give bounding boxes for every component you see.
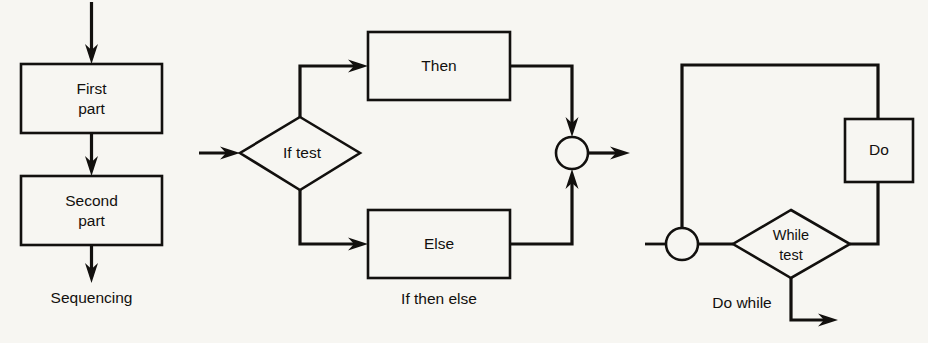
node-second-part: Second part xyxy=(21,176,162,245)
node-while-test-line2: test xyxy=(779,247,802,263)
caption-do-while: Do while xyxy=(712,294,771,311)
node-do: Do xyxy=(845,119,913,182)
node-loop-junction xyxy=(666,228,698,260)
node-merge-connector xyxy=(556,137,588,169)
connector-exit-if-then-else xyxy=(588,147,630,160)
node-second-part-line1: Second xyxy=(65,192,118,209)
node-first-part-line2: part xyxy=(78,100,105,117)
node-first-part: First part xyxy=(21,64,162,133)
connector-else-to-merge xyxy=(510,169,579,244)
node-do-label: Do xyxy=(869,141,889,158)
flowchart-canvas: First part Second part Sequencing xyxy=(0,0,928,343)
node-while-test-line1: While xyxy=(773,227,809,243)
connector-if-false-to-else xyxy=(300,190,368,251)
node-while-test: While test xyxy=(733,210,850,278)
node-second-part-line2: part xyxy=(78,212,105,229)
node-first-part-line1: First xyxy=(76,80,107,97)
caption-if-then-else: If then else xyxy=(401,290,477,307)
connector-then-to-merge xyxy=(510,66,579,137)
flowchart-figure: First part Second part Sequencing xyxy=(0,0,928,343)
node-else: Else xyxy=(368,210,510,278)
connector-exit-sequencing xyxy=(85,245,98,283)
panel-do-while: While test Do Do while xyxy=(645,65,913,327)
panel-if-then-else: If test Then xyxy=(199,32,630,307)
connector-entry-to-if-test xyxy=(199,147,240,160)
connector-first-to-second xyxy=(85,133,98,176)
node-if-test-label: If test xyxy=(283,144,322,161)
node-then: Then xyxy=(368,32,510,100)
caption-sequencing: Sequencing xyxy=(51,289,133,306)
connector-if-true-to-then xyxy=(300,60,368,118)
node-then-label: Then xyxy=(421,57,456,74)
node-else-label: Else xyxy=(424,235,454,252)
connector-entry-to-first-part xyxy=(85,2,98,64)
connector-exit-do-while xyxy=(791,278,838,327)
panel-sequencing: First part Second part Sequencing xyxy=(21,2,162,306)
connector-while-true-to-do xyxy=(850,182,878,244)
node-if-test: If test xyxy=(240,117,360,190)
